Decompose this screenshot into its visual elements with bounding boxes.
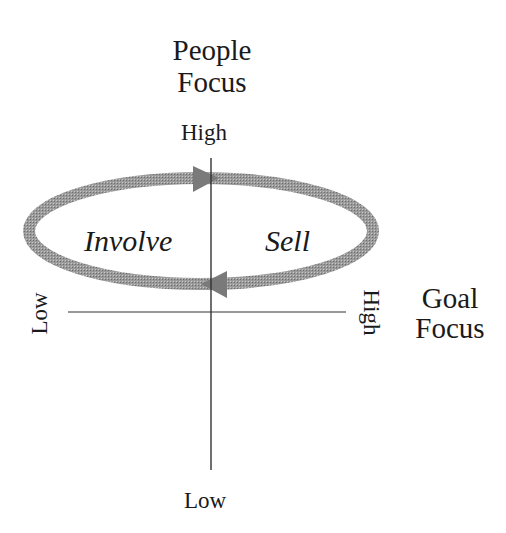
y-axis-low-label: Low <box>184 489 226 512</box>
y-axis-title-line2: Focus <box>150 68 274 97</box>
x-axis-title: Goal Focus <box>404 284 496 343</box>
sell-label: Sell <box>265 226 310 256</box>
y-axis-title: People Focus <box>150 36 274 97</box>
x-axis-title-line1: Goal <box>404 284 496 314</box>
y-axis-high-label: High <box>181 121 227 144</box>
x-axis-high-label: High <box>360 288 383 338</box>
y-axis-title-line1: People <box>150 36 274 68</box>
x-axis-title-line2: Focus <box>404 314 496 343</box>
involve-label: Involve <box>84 226 172 256</box>
arrowhead-right-icon <box>193 166 219 192</box>
x-axis-low-label: Low <box>28 292 51 336</box>
arrowhead-left-icon <box>201 271 227 298</box>
cycle-loop <box>29 178 373 284</box>
